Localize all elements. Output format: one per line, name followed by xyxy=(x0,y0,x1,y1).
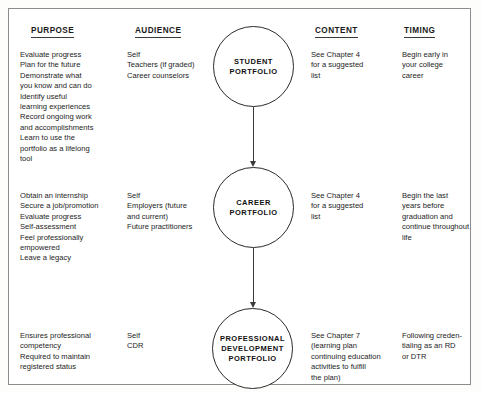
cell-content-career: See Chapter 4 for a suggested list xyxy=(311,191,399,222)
node-student-portfolio-label: STUDENT PORTFOLIO xyxy=(229,57,277,77)
cell-audience-career: Self Employers (future and current) Futu… xyxy=(127,191,212,233)
cell-purpose-professional: Ensures professional competency Required… xyxy=(20,331,132,373)
cell-audience-student: Self Teachers (if graded) Career counsel… xyxy=(127,50,217,81)
cell-purpose-student: Evaluate progress Plan for the future De… xyxy=(20,50,132,164)
node-career-portfolio: CAREER PORTFOLIO xyxy=(213,167,294,248)
node-professional-development-portfolio-label: PROFESSIONAL DEVELOPMENT PORTFOLIO xyxy=(220,334,285,364)
node-career-portfolio-label: CAREER PORTFOLIO xyxy=(229,198,277,218)
diagram-page: PURPOSE AUDIENCE CONTENT TIMING Evaluate… xyxy=(0,0,481,393)
cell-audience-professional: Self CDR xyxy=(127,331,212,352)
cell-content-student: See Chapter 4 for a suggested list xyxy=(311,50,399,81)
cell-timing-career: Begin the last years before graduation a… xyxy=(402,191,480,243)
column-header-content: CONTENT xyxy=(315,26,358,38)
cell-timing-student: Begin early in your college career xyxy=(402,50,480,81)
arrow-down-icon xyxy=(250,161,256,167)
cell-content-professional: See Chapter 7 (learning plan continuing … xyxy=(311,331,403,383)
column-header-purpose: PURPOSE xyxy=(31,26,74,38)
arrow-down-icon xyxy=(250,302,256,308)
cell-timing-professional: Following creden- tialing as an RD or DT… xyxy=(402,331,480,362)
column-header-audience: AUDIENCE xyxy=(135,26,181,38)
diagram-frame: PURPOSE AUDIENCE CONTENT TIMING Evaluate… xyxy=(8,8,471,385)
node-professional-development-portfolio: PROFESSIONAL DEVELOPMENT PORTFOLIO xyxy=(212,308,293,389)
connector-career-to-professional xyxy=(253,248,254,303)
node-student-portfolio: STUDENT PORTFOLIO xyxy=(213,26,294,107)
column-header-timing: TIMING xyxy=(404,26,435,38)
cell-purpose-career: Obtain an internship Secure a job/promot… xyxy=(20,191,138,264)
connector-student-to-career xyxy=(253,107,254,162)
